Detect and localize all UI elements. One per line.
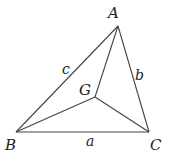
label-side-c: c [62,61,70,77]
label-b-vertex: B [4,136,16,154]
side-c [16,26,118,132]
side-b [118,26,149,132]
segment-ag [95,26,118,97]
segment-bg [16,97,95,132]
label-a-vertex: A [106,4,119,22]
triangle-sides [16,26,149,132]
segment-cg [95,97,149,132]
label-g-point: G [79,81,91,99]
label-side-b: b [135,67,144,83]
label-c-vertex: C [150,136,162,154]
label-side-a: a [86,133,94,149]
triangle-diagram: A B C G a b c [0,0,170,158]
cevians-to-g [16,26,149,132]
